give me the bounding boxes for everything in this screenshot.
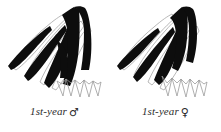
moulted-black-feathers-male [8,6,91,88]
caption-male-text: 1st-year [30,105,67,117]
wing-molt-figure: 1st-year♂ 1st-year [0,0,221,132]
wing-panel-female: 1st-year♀ [110,0,221,132]
male-symbol-icon: ♂ [67,106,79,119]
wing-illustration-female [110,0,221,104]
caption-female: 1st-year♀ [110,105,221,119]
caption-male: 1st-year♂ [0,105,111,119]
female-symbol-icon: ♀ [179,106,189,119]
wing-panel-male: 1st-year♂ [0,0,113,132]
moulted-black-feathers-female [117,6,197,85]
caption-female-text: 1st-year [142,105,179,117]
wing-illustration-male [0,0,113,104]
secondary-feather-zigzag-male [57,79,101,97]
